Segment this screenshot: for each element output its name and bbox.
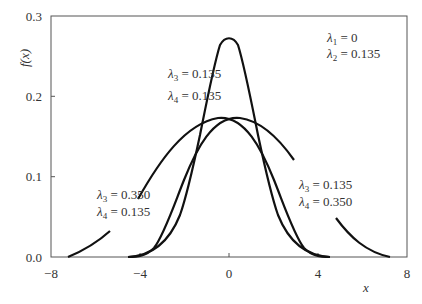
x-tick-0: 0 <box>226 266 233 281</box>
x-tick-8: 8 <box>404 266 411 281</box>
svg-text:λ4 = 0.350: λ4 = 0.350 <box>298 194 352 211</box>
svg-text:λ4 = 0.135: λ4 = 0.135 <box>167 88 221 105</box>
x-ticks <box>140 253 318 257</box>
annotation-lambda3-0350: λ3 = 0.350 λ4 = 0.135 <box>96 187 150 221</box>
x-axis-label: x <box>362 280 369 295</box>
svg-text:λ3 = 0.135: λ3 = 0.135 <box>298 177 352 194</box>
annotation-lambda1-2: λ1 = 0 λ2 = 0.135 <box>326 30 380 63</box>
y-tick-0.1: 0.1 <box>26 169 42 184</box>
y-tick-0: 0.0 <box>26 250 42 265</box>
x-tick-neg8: −8 <box>44 266 58 281</box>
y-tick-0.2: 0.2 <box>26 89 42 104</box>
y-axis-label: f(x) <box>17 49 32 67</box>
x-tick-4: 4 <box>315 266 322 281</box>
svg-text:λ4 = 0.135: λ4 = 0.135 <box>96 204 150 221</box>
chart: 0.0 0.1 0.2 0.3 −8 −4 0 4 8 x f(x) λ1 = … <box>0 0 422 304</box>
y-tick-0.3: 0.3 <box>26 9 42 24</box>
svg-text:λ3 = 0.135: λ3 = 0.135 <box>167 66 221 83</box>
annotation-symmetric: λ3 = 0.135 λ4 = 0.135 <box>167 66 221 105</box>
x-tick-neg4: −4 <box>133 266 147 281</box>
y-ticks <box>51 96 55 176</box>
curve-symmetric <box>128 38 330 257</box>
svg-text:λ3 = 0.350: λ3 = 0.350 <box>96 187 150 204</box>
svg-text:λ1 = 0: λ1 = 0 <box>326 30 357 47</box>
svg-text:λ2 = 0.135: λ2 = 0.135 <box>326 46 380 63</box>
annotation-lambda4-0350: λ3 = 0.135 λ4 = 0.350 <box>298 177 352 211</box>
curves <box>68 38 390 257</box>
